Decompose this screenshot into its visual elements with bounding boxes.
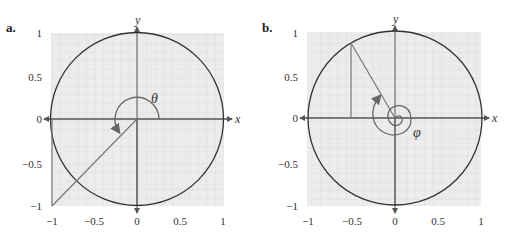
- phi-label: φ: [413, 125, 421, 140]
- x-tick-labels: −1 −0.5 0 0.5 1: [302, 215, 484, 227]
- svg-text:1: 1: [220, 215, 226, 227]
- svg-text:−1: −1: [30, 200, 42, 212]
- theta-label: θ: [151, 91, 158, 106]
- svg-text:−0.5: −0.5: [278, 158, 298, 170]
- svg-text:0: 0: [37, 113, 43, 125]
- y-axis-label: y: [134, 13, 141, 27]
- x-axis-label: x: [234, 112, 241, 126]
- x-tick-labels: −1 −0.5 0 0.5 1: [46, 215, 226, 227]
- y-axis-label: y: [392, 12, 399, 26]
- panel-a: a. x y θ −1 −0.5 0 0.5 1 1 0.5 0 −0.5: [6, 13, 241, 227]
- svg-text:0: 0: [392, 215, 398, 227]
- panel-b: b. x y φ −1 −0.5 0 0.5 1 1 0.5 0 −0.5: [262, 12, 498, 227]
- svg-text:0: 0: [293, 112, 299, 124]
- svg-text:1: 1: [37, 27, 43, 39]
- svg-text:−0.5: −0.5: [22, 158, 42, 170]
- svg-text:0.5: 0.5: [431, 215, 445, 227]
- y-tick-labels: 1 0.5 0 −0.5 −1: [22, 27, 42, 212]
- svg-text:−1: −1: [302, 215, 314, 227]
- svg-text:0.5: 0.5: [284, 71, 298, 83]
- panel-b-label: b.: [262, 20, 272, 35]
- panel-a-label: a.: [6, 20, 16, 35]
- svg-text:0.5: 0.5: [173, 215, 187, 227]
- svg-text:−0.5: −0.5: [84, 215, 104, 227]
- y-tick-labels: 1 0.5 0 −0.5 −1: [278, 27, 298, 212]
- svg-text:−1: −1: [286, 200, 298, 212]
- svg-text:0: 0: [134, 215, 140, 227]
- svg-text:−0.5: −0.5: [342, 215, 362, 227]
- svg-text:1: 1: [478, 215, 484, 227]
- x-axis-label: x: [491, 111, 498, 125]
- svg-text:−1: −1: [46, 215, 58, 227]
- svg-text:0.5: 0.5: [28, 71, 42, 83]
- svg-text:1: 1: [293, 27, 299, 39]
- figure: a. x y θ −1 −0.5 0 0.5 1 1 0.5 0 −0.5: [0, 0, 512, 240]
